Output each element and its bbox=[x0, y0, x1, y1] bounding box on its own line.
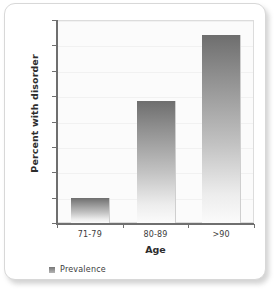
y-axis-tick bbox=[52, 172, 57, 173]
square-swatch-icon bbox=[49, 267, 55, 273]
y-axis-tick bbox=[52, 45, 57, 46]
y-axis-tick bbox=[52, 198, 57, 199]
y-axis-tick bbox=[52, 20, 57, 21]
x-axis-tick-label: 80-89 bbox=[126, 230, 186, 239]
y-axis-tick bbox=[52, 71, 57, 72]
y-axis-tick bbox=[52, 147, 57, 148]
x-axis-tick bbox=[254, 224, 255, 228]
bar bbox=[71, 198, 110, 223]
x-axis-tick bbox=[188, 224, 189, 228]
gridline bbox=[58, 21, 253, 22]
x-axis-line bbox=[56, 223, 254, 225]
y-axis-title: Percent with disorder bbox=[29, 34, 40, 194]
x-axis-title: Age bbox=[57, 244, 254, 255]
x-axis-tick-label: 71-79 bbox=[60, 230, 120, 239]
chart-legend: Prevalence bbox=[49, 265, 106, 274]
x-axis-tick bbox=[123, 224, 124, 228]
bar bbox=[202, 35, 241, 223]
legend-label: Prevalence bbox=[60, 265, 106, 274]
chart-card: 0510152025303540 Percent with disorder 7… bbox=[4, 3, 266, 280]
x-axis-tick-label: >90 bbox=[191, 230, 251, 239]
y-axis-tick bbox=[52, 122, 57, 123]
bar bbox=[137, 101, 176, 223]
y-axis-tick bbox=[52, 96, 57, 97]
x-axis-tick bbox=[57, 224, 58, 228]
